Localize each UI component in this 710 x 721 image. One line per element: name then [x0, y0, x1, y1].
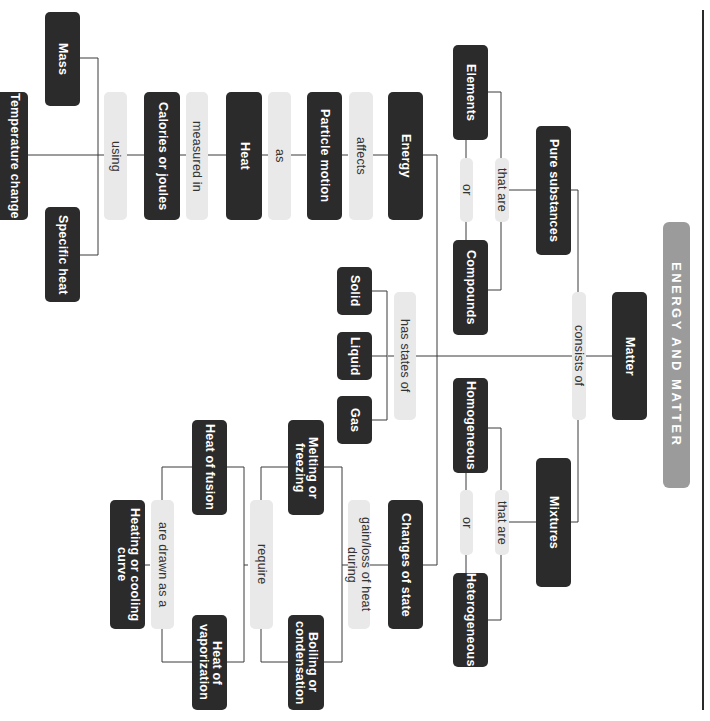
connector-heats-bracket	[227, 467, 244, 662]
concept-specific-heat: Specific heat	[45, 207, 80, 302]
concept-heating-or-cooling-curve: Heating or cooling curve	[110, 500, 145, 629]
concept-changes-of-state: Changes of state	[388, 500, 423, 629]
connector-states-bracket	[372, 291, 387, 420]
link-gain-loss-of-heat-during: gain/loss of heat during	[348, 500, 370, 629]
concept-map: ENERGY AND MATTER Matter consists of Pur…	[0, 0, 710, 721]
connector-trunk	[423, 155, 437, 565]
link-or-mixtures: or	[460, 490, 473, 555]
page-border-line	[702, 10, 704, 710]
link-using: using	[104, 92, 127, 220]
concept-heat: Heat	[226, 92, 262, 220]
connector-thatare-elements	[488, 92, 501, 158]
link-or-pure: or	[460, 158, 473, 222]
connector-gainloss-melt-boil	[323, 467, 342, 662]
connector-consists-pure	[571, 190, 578, 292]
concept-solid: Solid	[337, 267, 372, 315]
connector-using-mass-specific	[80, 58, 98, 255]
concept-particle-motion: Particle motion	[307, 92, 342, 220]
concept-pure-substances: Pure substances	[536, 126, 571, 255]
connector-consists-mixtures	[571, 420, 578, 522]
concept-homogeneous: Homogeneous	[453, 378, 488, 473]
concept-gas: Gas	[337, 396, 372, 444]
concept-heat-of-fusion: Heat of fusion	[192, 420, 227, 515]
connector-thatare-heterog	[488, 555, 501, 620]
concept-compounds: Compounds	[453, 240, 488, 335]
concept-mixtures: Mixtures	[536, 458, 571, 587]
link-as: as	[268, 92, 291, 220]
concept-heat-of-vaporization: Heat of vaporization	[192, 615, 227, 710]
link-require: require	[250, 500, 273, 629]
concept-elements: Elements	[453, 45, 488, 140]
title-bar: ENERGY AND MATTER	[663, 222, 690, 488]
link-affects: affects	[349, 92, 373, 220]
link-that-are-mixtures: that are	[495, 490, 509, 555]
connector-thatare-compounds	[488, 222, 501, 290]
concept-mass: Mass	[45, 12, 80, 106]
link-measured-in: measured in	[186, 92, 208, 220]
concept-energy: Energy	[388, 92, 423, 220]
concept-liquid: Liquid	[337, 332, 372, 380]
link-has-states-of: has states of	[394, 292, 416, 420]
concept-calories-or-joules: Calories or joules	[144, 92, 180, 220]
concept-boiling-or-condensation: Boiling or condensation	[288, 615, 324, 710]
concept-melting-or-freezing: Melting or freezing	[288, 420, 324, 515]
connector-thatare-homog	[488, 428, 501, 490]
concept-heterogeneous: Heterogeneous	[453, 573, 488, 667]
link-that-are-pure: that are	[495, 158, 509, 222]
concept-temperature-change: Temperature change	[0, 92, 28, 220]
link-consists-of: consists of	[572, 292, 586, 420]
concept-matter: Matter	[612, 292, 647, 420]
link-are-drawn-as-a: are drawn as a	[151, 500, 174, 629]
